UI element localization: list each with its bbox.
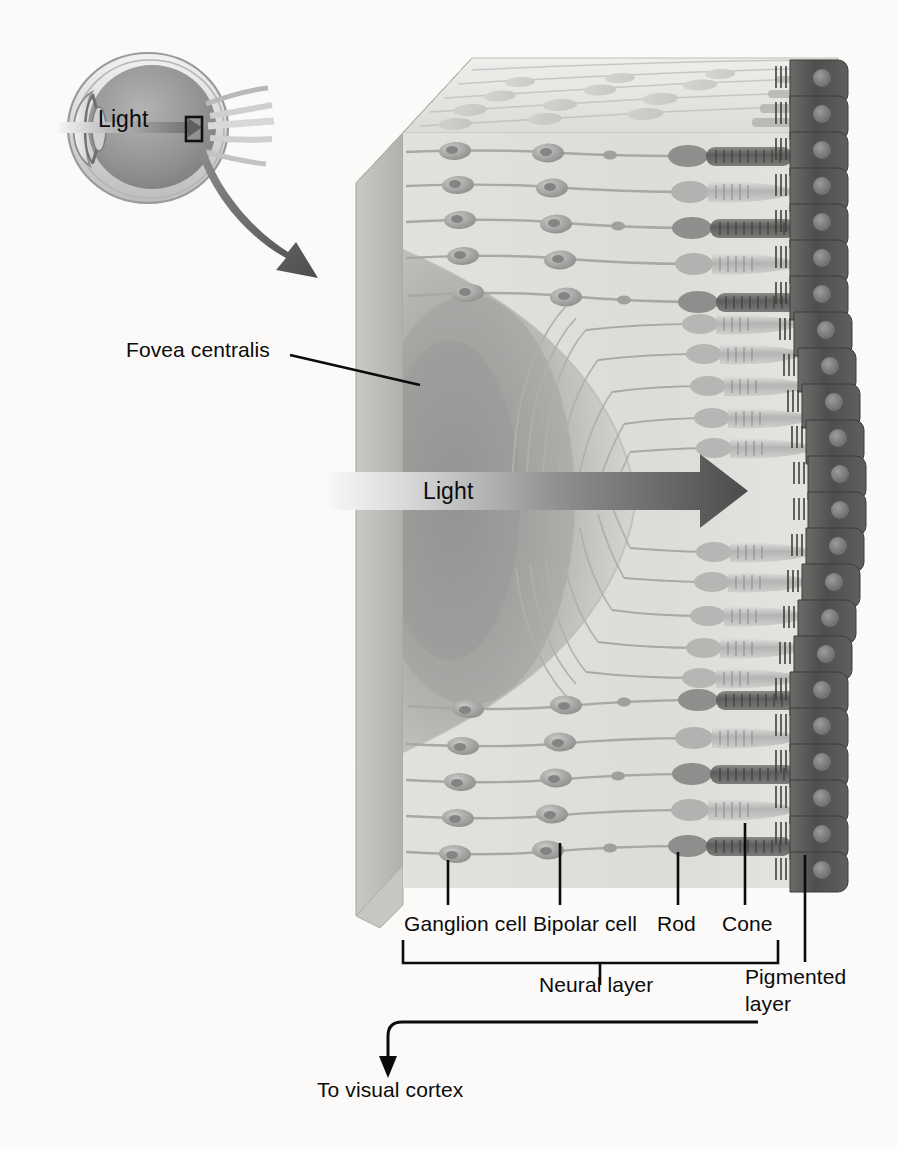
rod-label: Rod <box>657 912 696 936</box>
to-visual-cortex-arrow <box>388 1022 758 1062</box>
pigmented-layer-label-line1: Pigmented <box>745 965 846 989</box>
ganglion-cell-label: Ganglion cell <box>404 912 527 936</box>
to-visual-cortex-arrowhead <box>379 1056 397 1078</box>
neural-layer-label: Neural layer <box>539 973 653 997</box>
optic-nerve <box>206 88 274 164</box>
eyeball-inset <box>58 53 318 278</box>
to-visual-cortex-label: To visual cortex <box>317 1078 463 1102</box>
bipolar-cell-label: Bipolar cell <box>533 912 637 936</box>
block-left-face <box>356 133 403 916</box>
cone-label: Cone <box>722 912 773 936</box>
fovea-centralis-label: Fovea centralis <box>126 338 270 362</box>
pigmented-layer-label-line2: layer <box>745 992 791 1016</box>
retina-light-label: Light <box>423 478 473 505</box>
eye-light-label: Light <box>98 106 148 133</box>
retina-structure-figure: Light Fovea centralis Light Ganglion cel… <box>0 0 897 1149</box>
